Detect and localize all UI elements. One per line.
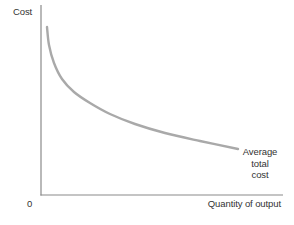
curve-label-line-2: total — [239, 158, 281, 170]
average-total-cost-curve — [47, 27, 238, 149]
y-axis-label: Cost — [13, 6, 32, 17]
chart-canvas — [0, 0, 294, 225]
curve-label: Average total cost — [239, 146, 281, 181]
curve-label-line-3: cost — [239, 169, 281, 181]
origin-label: 0 — [27, 198, 32, 209]
x-axis-label: Quantity of output — [208, 198, 281, 209]
curve-label-line-1: Average — [239, 146, 281, 158]
average-total-cost-figure: Cost 0 Quantity of output Average total … — [0, 0, 294, 225]
